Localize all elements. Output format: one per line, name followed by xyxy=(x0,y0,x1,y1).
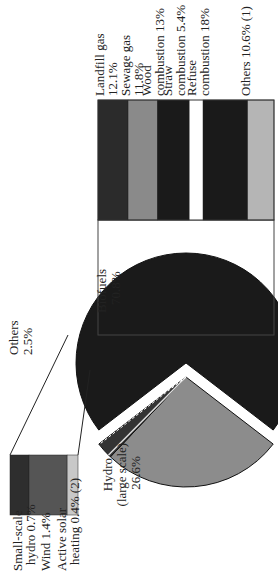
others-value-label: 2.5% xyxy=(20,328,35,355)
biofuels-segment-others xyxy=(248,100,274,220)
biofuels-segment-label: Others 10.6% (1) xyxy=(238,6,253,96)
chart-stage: Biofuels 70.8% Hydro (large scale) 26.6%… xyxy=(0,0,278,575)
others-label-line: Others xyxy=(6,320,21,355)
others-segment-label-line: heating 0.4% (2) xyxy=(67,478,82,565)
biofuels-label-line: Biofuels xyxy=(94,269,109,313)
others-segment-label: Wind 1.4% xyxy=(38,512,53,571)
others-segment-label-line: hydro 0.7% xyxy=(23,504,38,565)
biofuels-segment-straw-combustion xyxy=(190,100,203,220)
biofuels-segment-label: Landfill gas12.1% xyxy=(92,34,120,96)
biofuels-breakdown-bar xyxy=(98,100,274,220)
hydro-label-line: (large scale) xyxy=(114,443,129,507)
biofuels-segment-landfill-gas xyxy=(98,100,128,220)
biofuels-segment-label-line: combustion 18% xyxy=(197,8,212,96)
others-segment-label-line: Wind 1.4% xyxy=(38,512,53,571)
biofuels-segment-label-line: Others 10.6% (1) xyxy=(238,6,253,96)
hydro-label-line: Hydro xyxy=(100,458,115,491)
renewables-pie-chart: Biofuels 70.8% Hydro (large scale) 26.6%… xyxy=(0,0,278,575)
biofuels-segment-refuse-combustion xyxy=(203,100,248,220)
others-segment-label: Small-scalehydro 0.7% xyxy=(10,504,38,571)
hydro-value-label: 26.6% xyxy=(128,456,143,490)
biofuels-value-label: 70.8% xyxy=(108,271,123,305)
biofuels-segment-label: Refusecombustion 18% xyxy=(184,8,212,96)
others-label: Others 2.5% xyxy=(6,317,35,355)
biofuels-segment-wood-combustion xyxy=(157,100,189,220)
biofuels-segment-sewage-gas xyxy=(128,100,157,220)
